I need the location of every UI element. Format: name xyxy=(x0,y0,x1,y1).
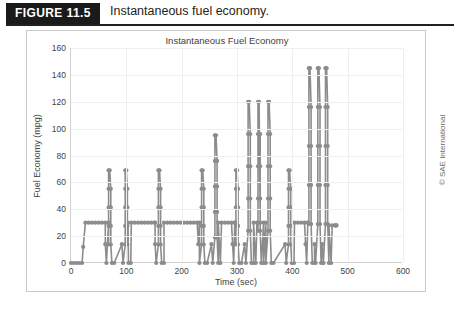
header-divider xyxy=(6,24,454,26)
data-point-marker xyxy=(248,229,252,233)
x-axis-tick-label: 400 xyxy=(285,266,299,276)
x-gridline xyxy=(348,48,349,262)
x-axis-tick-label: 200 xyxy=(175,266,189,276)
data-point-marker xyxy=(109,242,113,246)
x-axis-tick-label: 600 xyxy=(396,266,410,276)
data-point-marker xyxy=(318,144,322,148)
data-point-marker xyxy=(264,221,268,225)
y-axis-tick-label: 80 xyxy=(57,151,66,161)
data-point-marker xyxy=(253,242,257,246)
data-point-marker xyxy=(258,229,262,233)
data-point-marker xyxy=(153,221,157,225)
figure-number-badge: FIGURE 11.5 xyxy=(6,3,100,24)
data-point-marker xyxy=(81,245,85,249)
x-gridline xyxy=(292,48,293,262)
figure-header: FIGURE 11.5 Instantaneous fuel economy. xyxy=(0,0,468,27)
data-point-marker xyxy=(109,224,113,228)
data-point-marker xyxy=(201,168,205,172)
data-point-marker xyxy=(209,242,213,246)
y-axis-tick-label: 100 xyxy=(52,124,66,134)
y-axis-label-wrapper: Fuel Economy (mpg) xyxy=(39,48,51,263)
data-point-marker xyxy=(159,187,163,191)
data-point-marker xyxy=(248,164,252,168)
data-point-marker xyxy=(263,242,267,246)
x-axis-tick-label: 500 xyxy=(341,266,355,276)
y-axis-label: Fuel Economy (mpg) xyxy=(32,114,42,198)
data-point-marker xyxy=(326,144,330,148)
data-point-marker xyxy=(108,168,112,172)
data-point-marker xyxy=(258,164,262,168)
y-axis-tick-label: 20 xyxy=(57,231,66,241)
data-point-marker xyxy=(214,133,218,137)
data-point-marker xyxy=(309,144,313,148)
x-gridline xyxy=(126,48,127,262)
data-point-marker xyxy=(318,222,322,226)
data-point-marker xyxy=(157,168,161,172)
y-axis-tick-label: 40 xyxy=(57,204,66,214)
y-axis-tick-label: 140 xyxy=(52,70,66,80)
y-axis-tick-label: 120 xyxy=(52,97,66,107)
data-point-marker xyxy=(268,229,272,233)
data-point-marker xyxy=(159,224,163,228)
data-point-marker xyxy=(304,242,308,246)
plot-area: 0204060801001201401600100200300400500600 xyxy=(70,48,402,263)
x-gridline xyxy=(237,48,238,262)
data-point-marker xyxy=(159,242,163,246)
data-point-marker xyxy=(243,242,247,246)
data-point-marker xyxy=(109,187,113,191)
data-point-marker xyxy=(248,196,252,200)
data-point-marker xyxy=(325,66,329,70)
y-axis-tick-label: 0 xyxy=(61,258,66,268)
data-point-marker xyxy=(335,223,339,227)
x-axis-label: Time (sec) xyxy=(70,277,402,287)
data-point-marker xyxy=(309,183,313,187)
x-axis-tick-label: 0 xyxy=(69,266,74,276)
x-gridline xyxy=(182,48,183,262)
chart-title: Instantaneous Fuel Economy xyxy=(27,35,427,46)
y-gridline xyxy=(71,263,402,264)
data-point-marker xyxy=(326,183,330,187)
data-point-marker xyxy=(318,105,322,109)
data-point-marker xyxy=(268,196,272,200)
data-point-marker xyxy=(215,184,219,188)
y-axis-tick-label: 60 xyxy=(57,177,66,187)
data-point-marker xyxy=(258,196,262,200)
x-axis-tick-label: 300 xyxy=(230,266,244,276)
data-point-marker xyxy=(268,164,272,168)
data-point-marker xyxy=(326,105,330,109)
figure-caption: Instantaneous fuel economy. xyxy=(110,4,269,18)
data-point-marker xyxy=(202,187,206,191)
data-point-marker xyxy=(202,224,206,228)
data-point-marker xyxy=(202,242,206,246)
chart-container: Instantaneous Fuel Economy Fuel Economy … xyxy=(26,30,426,292)
x-axis-tick-label: 100 xyxy=(119,266,133,276)
y-axis-tick-label: 160 xyxy=(52,43,66,53)
data-point-marker xyxy=(288,168,292,172)
data-point-marker xyxy=(215,210,219,214)
x-gridline xyxy=(403,48,404,262)
data-point-marker xyxy=(309,105,313,109)
data-point-marker xyxy=(309,222,313,226)
data-point-marker xyxy=(320,242,324,246)
data-point-marker xyxy=(268,132,272,136)
data-point-marker xyxy=(308,66,312,70)
copyright-credit: © SAE International xyxy=(438,115,447,185)
data-point-marker xyxy=(258,132,262,136)
data-point-marker xyxy=(318,183,322,187)
data-point-marker xyxy=(317,66,321,70)
series-path xyxy=(71,68,337,263)
data-point-marker xyxy=(215,159,219,163)
data-point-marker xyxy=(312,242,316,246)
data-point-marker xyxy=(248,132,252,136)
